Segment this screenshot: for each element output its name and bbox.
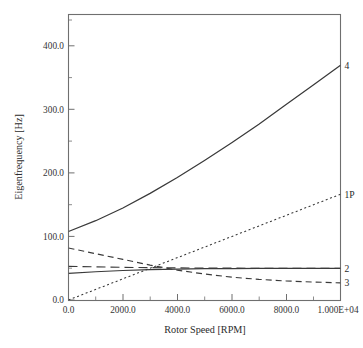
campbell-diagram-figure: 0.0 100.0 200.0 300.0 400.0 0.0 2000.0 4… xyxy=(0,0,363,348)
x-ticklabel-10000: 1.000E+04 xyxy=(317,305,358,315)
y-ticklabel-400: 400.0 xyxy=(43,41,64,51)
y-ticklabel-0: 0.0 xyxy=(52,295,64,305)
y-ticklabel-300: 300.0 xyxy=(43,105,64,115)
x-axis-title: Rotor Speed [RPM] xyxy=(164,324,246,335)
curve-label-4: 4 xyxy=(345,60,350,71)
y-ticklabel-200: 200.0 xyxy=(43,168,64,178)
plot-frame xyxy=(69,15,341,301)
curve-label-1p: 1P xyxy=(345,189,355,200)
y-axis-title: Eigenfrequency [Hz] xyxy=(13,114,24,200)
x-ticklabel-0: 0.0 xyxy=(63,305,75,315)
curve-label-2: 2 xyxy=(345,263,350,274)
curve-label-3: 3 xyxy=(345,277,350,288)
y-ticklabel-100: 100.0 xyxy=(43,232,64,242)
x-ticklabel-6000: 6000.0 xyxy=(219,305,245,315)
x-ticklabel-4000: 4000.0 xyxy=(165,305,191,315)
chart-svg: 0.0 100.0 200.0 300.0 400.0 0.0 2000.0 4… xyxy=(0,0,363,348)
x-ticklabel-8000: 8000.0 xyxy=(274,305,300,315)
x-ticklabel-2000: 2000.0 xyxy=(110,305,136,315)
